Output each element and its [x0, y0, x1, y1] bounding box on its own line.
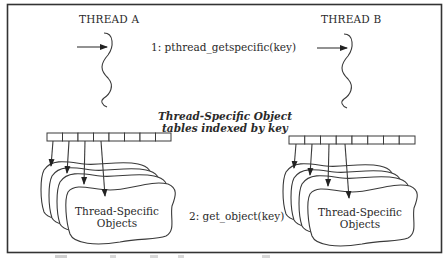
thread-b-icon [317, 34, 352, 108]
call-get-object: 2: get_object(key) [189, 210, 284, 223]
thread-a-icon [77, 33, 112, 107]
thread-b-objects-label-line1: Thread-Specific [318, 206, 402, 218]
thread-b-label: THREAD B [321, 13, 381, 25]
tables-label-line2: tables indexed by key [162, 122, 289, 134]
tables-label-line1: Thread-Specific Object [158, 110, 292, 122]
thread-a-key-table [47, 133, 171, 141]
thread-a-objects-label-line2: Objects [97, 217, 137, 229]
thread-b-key-table [289, 136, 415, 144]
thread-b-objects-stack: Thread-Specific Objects [283, 164, 417, 246]
thread-a-label: THREAD A [79, 13, 139, 25]
thread-a-objects-label-line1: Thread-Specific [75, 205, 159, 217]
thread-a-objects-stack: Thread-Specific Objects [41, 162, 175, 244]
thread-b-objects-label-line2: Objects [340, 218, 380, 230]
call-pthread-getspecific: 1: pthread_getspecific(key) [151, 41, 296, 54]
diagram-canvas: THREAD A THREAD B 1: pthread_getspecific… [0, 0, 448, 258]
